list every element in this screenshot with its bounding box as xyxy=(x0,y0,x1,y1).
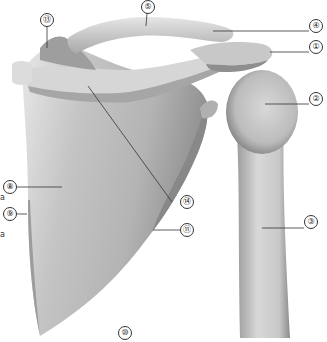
callout-13-superior-angle: ⑬ xyxy=(40,13,54,27)
callout-9-medial-border: ⑨ xyxy=(3,207,17,221)
callout-8-scapula-body: ⑧ xyxy=(3,180,17,194)
edge-text-fragment: a xyxy=(0,193,5,202)
callout-3-humerus-shaft: ③ xyxy=(304,215,318,229)
edge-text-fragment: a xyxy=(0,230,5,239)
callout-14-spine: ⑭ xyxy=(180,195,194,209)
callout-2-humeral-head: ② xyxy=(309,92,323,106)
callout-10-inferior-angle: ⑩ xyxy=(118,326,132,340)
callout-5-clavicle: ⑤ xyxy=(141,0,155,14)
callout-4-clavicle-end: ④ xyxy=(309,19,323,33)
humeral-head xyxy=(226,70,298,154)
callout-11-lateral-border: ⑪ xyxy=(180,223,194,237)
callout-1-acromion: ① xyxy=(309,40,323,54)
